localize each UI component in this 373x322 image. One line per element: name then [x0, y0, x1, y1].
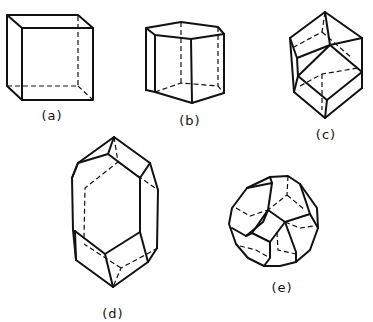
cube-shape: [7, 15, 93, 100]
label-c: (c): [316, 127, 336, 142]
label-b: (b): [179, 113, 200, 128]
truncated-octahedron-shape: [229, 176, 318, 266]
label-d: (d): [102, 306, 123, 321]
elongated-dodecahedron-shape: [72, 137, 158, 287]
rhombic-dodecahedron-shape: [290, 12, 362, 118]
polyhedra-figure: (a) (b) (c): [0, 0, 373, 322]
label-a: (a): [41, 108, 62, 123]
label-e: (e): [271, 280, 292, 295]
hexagonal-prism-shape: [146, 22, 224, 103]
